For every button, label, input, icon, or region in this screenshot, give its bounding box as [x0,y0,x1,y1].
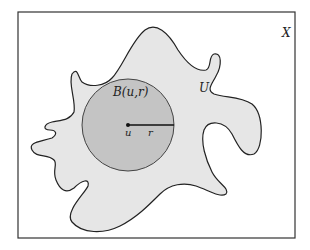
diagram-canvas: B(u,r) u r U X [0,0,310,250]
space-label: X [281,26,291,40]
set-label: U [199,81,210,95]
ball-label: B(u,r) [112,85,149,99]
center-label: u [125,127,131,138]
